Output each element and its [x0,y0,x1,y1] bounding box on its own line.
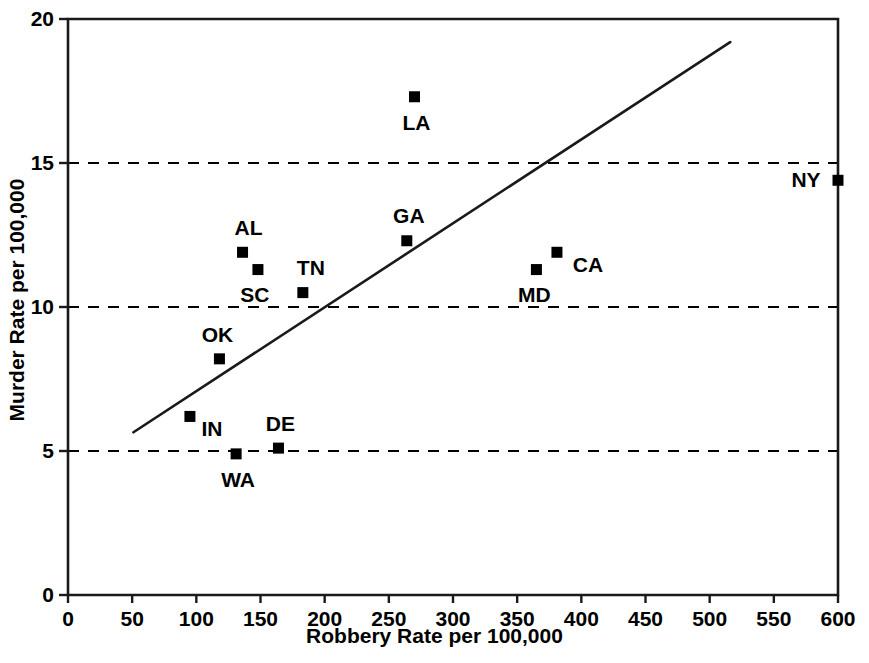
point-label-in: IN [201,417,222,441]
data-marker-wa [231,448,242,459]
point-label-wa: WA [221,468,255,492]
data-marker-ga [401,235,412,246]
regression-line [133,42,730,432]
gridlines-group [68,163,838,451]
trend-line-group [133,42,730,432]
data-marker-sc [252,264,263,275]
point-label-la: LA [403,111,431,135]
point-label-ok: OK [202,323,234,347]
data-marker-in [184,411,195,422]
point-label-ca: CA [573,253,603,277]
x-axis-title: Robbery Rate per 100,000 [0,624,869,648]
data-marker-ny [833,175,844,186]
point-label-ga: GA [393,204,425,228]
data-markers-group [184,91,843,459]
data-marker-ca [551,247,562,258]
point-label-al: AL [235,216,263,240]
data-marker-ok [214,353,225,364]
point-label-md: MD [518,283,551,307]
data-marker-de [273,443,284,454]
point-label-ny: NY [791,168,820,192]
y-axis-title: Murder Rate per 100,000 [5,179,29,422]
y-axis-title-wrapper: Murder Rate per 100,000 [0,0,34,600]
plot-canvas [0,0,869,663]
axis-ticks-group [59,19,838,603]
data-marker-tn [297,287,308,298]
point-label-de: DE [266,412,295,436]
data-marker-al [237,247,248,258]
data-marker-la [409,91,420,102]
data-marker-md [531,264,542,275]
point-label-tn: TN [297,256,325,280]
scatter-plot-figure: 050100150200250300350400450500550600 051… [0,0,869,663]
point-label-sc: SC [240,283,269,307]
